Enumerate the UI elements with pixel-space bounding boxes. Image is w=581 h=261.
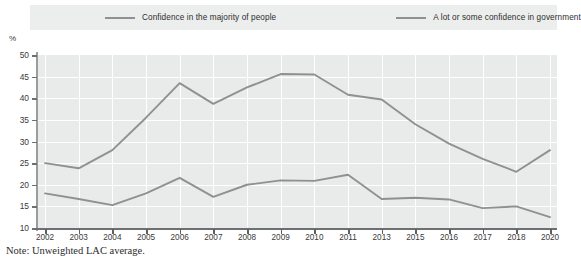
plot-area	[38, 55, 557, 228]
y-axis-tick	[32, 163, 37, 165]
y-axis-tick	[32, 120, 37, 122]
y-axis-label: 10	[7, 223, 29, 233]
y-axis-label: 40	[7, 93, 29, 103]
legend-label-people: Confidence in the majority of people	[142, 13, 276, 22]
line-government	[45, 74, 550, 172]
y-axis-label: 20	[7, 180, 29, 190]
series-lines	[38, 55, 557, 228]
y-axis-tick	[32, 142, 37, 144]
legend-line-swatch-people	[105, 17, 135, 19]
y-axis-tick	[32, 185, 37, 187]
legend-label-government: A lot or some confidence in government	[433, 13, 581, 22]
y-axis-label: 50	[7, 50, 29, 60]
chart-legend: Confidence in the majority of people A l…	[30, 5, 557, 30]
y-axis-label: 35	[7, 115, 29, 125]
y-axis-label: 45	[7, 72, 29, 82]
x-axis-label: 2020	[530, 233, 570, 242]
line-people	[45, 175, 550, 217]
y-axis-label: 30	[7, 137, 29, 147]
chart-note: Note: Unweighted LAC average.	[6, 245, 145, 256]
y-axis-tick	[32, 55, 37, 57]
y-axis-label: 25	[7, 158, 29, 168]
y-axis-tick	[32, 98, 37, 100]
legend-item-government: A lot or some confidence in government	[396, 13, 581, 22]
legend-item-people: Confidence in the majority of people	[105, 13, 276, 22]
y-axis-label: 15	[7, 201, 29, 211]
y-axis-tick	[32, 228, 37, 230]
y-axis-tick	[32, 206, 37, 208]
y-axis-tick	[32, 77, 37, 79]
y-axis-unit-label: %	[9, 34, 16, 43]
x-axis-line	[36, 228, 557, 230]
legend-line-swatch-government	[396, 17, 426, 19]
